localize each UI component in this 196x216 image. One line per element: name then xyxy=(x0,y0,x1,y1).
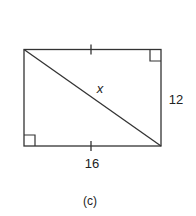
right-side-length-label: 12 xyxy=(169,92,183,107)
rectangle-diagram: x 12 16 (c) xyxy=(0,0,196,216)
right-angle-marker-top-right xyxy=(150,50,161,62)
diagonal-line xyxy=(24,50,161,147)
figure-caption: (c) xyxy=(83,194,97,208)
diagonal-label: x xyxy=(96,81,104,96)
bottom-side-length-label: 16 xyxy=(85,156,99,171)
right-angle-marker-bottom-left xyxy=(24,135,35,146)
